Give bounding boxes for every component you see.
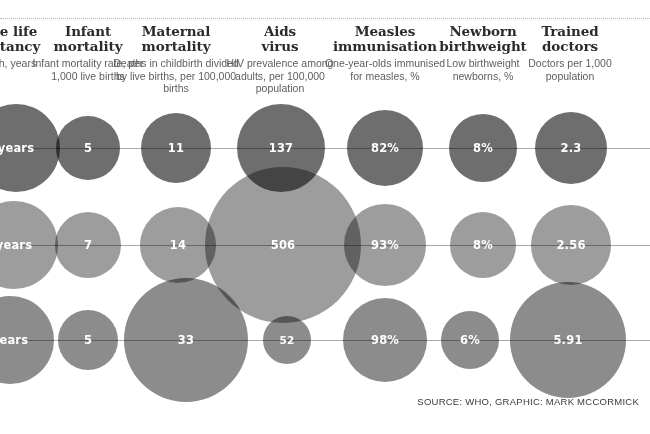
- bubble-chart-plot: years51113782%8%2.3years71450693%8%2.56y…: [0, 0, 650, 434]
- bubble-label-r3c4: 98%: [371, 333, 399, 347]
- bubble-label-r3c0: years: [0, 333, 28, 347]
- bubble-label-r1c4: 82%: [371, 141, 399, 155]
- bubble-label-r1c5: 8%: [473, 141, 493, 155]
- bubble-label-r2c5: 8%: [473, 238, 493, 252]
- bubble-label-r3c2: 33: [178, 333, 194, 347]
- bubble-label-r3c1: 5: [84, 333, 92, 347]
- bubble-label-r3c5: 6%: [460, 333, 480, 347]
- bubble-label-r2c4: 93%: [371, 238, 399, 252]
- infographic-root: le lifectancyth, yearsInfantmortalityInf…: [0, 0, 650, 434]
- bubble-label-r1c3: 137: [269, 141, 294, 155]
- bubble-label-r2c0: years: [0, 238, 32, 252]
- bubble-label-r3c3: 52: [279, 334, 294, 346]
- bubble-label-r1c6: 2.3: [561, 141, 582, 155]
- bubble-label-r2c3: 506: [271, 238, 296, 252]
- bubble-label-r2c2: 14: [170, 238, 186, 252]
- bubble-label-r1c2: 11: [168, 141, 184, 155]
- bubble-label-r3c6: 5.91: [553, 333, 582, 347]
- bubble-label-r1c1: 5: [84, 141, 92, 155]
- source-credit: SOURCE: WHO, GRAPHIC: MARK MCCORMICK: [0, 396, 639, 407]
- bubble-label-r2c6: 2.56: [556, 238, 585, 252]
- bubble-label-r1c0: years: [0, 141, 34, 155]
- bubble-label-r2c1: 7: [84, 238, 92, 252]
